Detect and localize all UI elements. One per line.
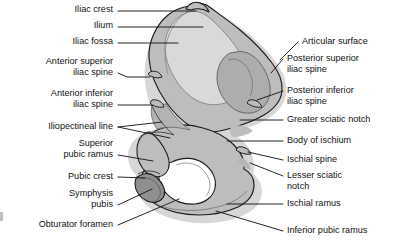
leader-symphysis-pubis <box>118 189 152 205</box>
label-symphysis-pubis: Symphysispubis <box>69 188 113 209</box>
label-articular-surface: Articular surface <box>302 36 368 47</box>
label-ischial-ramus: Ischial ramus <box>287 198 341 209</box>
label-iliopectineal-line: Iliopectineal line <box>48 121 113 132</box>
label-anterior-superior-iliac-spine: Anterior superioriliac spine <box>46 56 113 77</box>
label-ilium: Ilium <box>94 20 113 31</box>
anatomy-figure: Iliac crest Ilium Iliac fossa Anterior s… <box>0 0 397 247</box>
leader-iliopectineal-line-b <box>118 127 170 138</box>
label-body-of-ischium: Body of ischium <box>287 135 351 146</box>
label-lesser-sciatic-notch: Lesser sciaticnotch <box>287 170 342 191</box>
label-ischial-spine: Ischial spine <box>287 154 337 165</box>
leader-lesser-sciatic-notch <box>250 163 283 176</box>
leader-ischial-spine <box>248 152 283 160</box>
label-iliac-crest: Iliac crest <box>75 4 113 15</box>
label-posterior-superior-iliac-spine: Posterior superioriliac spine <box>287 53 359 74</box>
label-pubic-crest: Pubic crest <box>68 171 113 182</box>
leader-posterior-inferior-iliac-spine <box>257 91 283 100</box>
label-superior-pubic-ramus: Superiorpubic ramus <box>63 138 113 159</box>
leader-anterior-superior-iliac-spine <box>118 73 150 77</box>
label-posterior-inferior-iliac-spine: Posterior inferioriliac spine <box>287 85 354 106</box>
leader-superior-pubic-ramus <box>118 155 153 161</box>
label-iliac-fossa: Iliac fossa <box>73 36 113 47</box>
leader-iliopectineal-line-a <box>118 122 162 127</box>
leader-posterior-superior-iliac-spine <box>271 59 283 73</box>
label-greater-sciatic-notch: Greater sciatic notch <box>287 114 370 125</box>
leader-inferior-pubic-ramus <box>216 211 283 231</box>
label-inferior-pubic-ramus: Inferior pubic ramus <box>287 225 367 236</box>
leader-pubic-crest <box>118 177 145 178</box>
label-anterior-inferior-iliac-spine: Anterior inferioriliac spine <box>51 88 113 109</box>
label-obturator-foramen: Obturator foramen <box>39 219 113 230</box>
page-edge-artifact <box>0 212 3 221</box>
leader-obturator-foramen <box>118 199 179 225</box>
